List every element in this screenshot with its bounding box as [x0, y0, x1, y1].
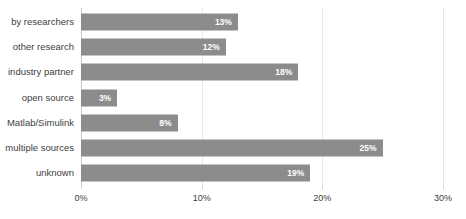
bar-row: other research 12% [0, 34, 466, 59]
bar[interactable]: 8% [81, 114, 178, 131]
x-tick-label: 10% [193, 193, 211, 203]
bar-row: by researchers 13% [0, 9, 466, 34]
bar-container: 13% [81, 13, 238, 30]
category-label: unknown [0, 167, 74, 179]
bar[interactable]: 12% [81, 38, 226, 55]
bar-value-label: 19% [287, 165, 310, 182]
bar-value-label: 12% [203, 38, 226, 55]
bar-rows: by researchers 13% other research 12% in… [0, 0, 466, 185]
x-axis: 0% 10% 20% 30% [0, 185, 466, 219]
x-tick [202, 185, 203, 189]
bar[interactable]: 19% [81, 165, 310, 182]
bar-row: open source 3% [0, 85, 466, 110]
bar-value-label: 18% [275, 64, 298, 81]
bar-value-label: 25% [360, 140, 383, 157]
category-label: by researchers [0, 16, 74, 28]
x-tick [81, 185, 82, 189]
x-tick [443, 185, 444, 189]
bar-container: 12% [81, 38, 226, 55]
category-label: industry partner [0, 66, 74, 78]
x-tick [322, 185, 323, 189]
bar-container: 19% [81, 165, 310, 182]
bar-row: industry partner 18% [0, 60, 466, 85]
bar[interactable]: 18% [81, 64, 298, 81]
category-label: open source [0, 92, 74, 104]
category-label: Matlab/Simulink [0, 117, 74, 129]
bar-container: 3% [81, 89, 117, 106]
bar-chart: by researchers 13% other research 12% in… [0, 0, 466, 219]
bar-value-label: 8% [159, 114, 177, 131]
bar-row: unknown 19% [0, 161, 466, 186]
category-label: other research [0, 41, 74, 53]
bar-row: Matlab/Simulink 8% [0, 110, 466, 135]
category-label: multiple sources [0, 142, 74, 154]
bar[interactable]: 13% [81, 13, 238, 30]
x-tick-label: 0% [74, 193, 87, 203]
x-tick-label: 30% [434, 193, 452, 203]
bar[interactable]: 3% [81, 89, 117, 106]
bar-row: multiple sources 25% [0, 136, 466, 161]
bar[interactable]: 25% [81, 140, 383, 157]
bar-container: 18% [81, 64, 298, 81]
bar-value-label: 3% [99, 89, 117, 106]
x-tick-label: 20% [313, 193, 331, 203]
bar-container: 25% [81, 140, 383, 157]
bar-value-label: 13% [215, 13, 238, 30]
bar-container: 8% [81, 114, 178, 131]
